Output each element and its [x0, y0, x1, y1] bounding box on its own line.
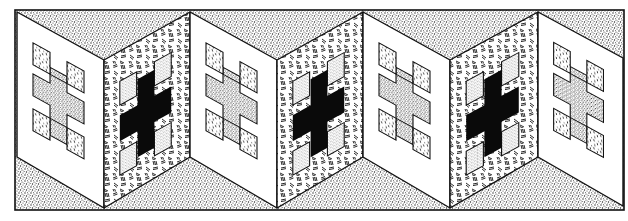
folding-screen-illustration: [0, 0, 628, 221]
illustration-canvas: [0, 0, 628, 221]
